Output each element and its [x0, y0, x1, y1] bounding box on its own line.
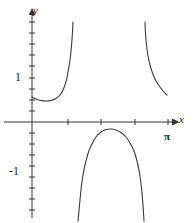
y-axis-label: y — [33, 5, 38, 16]
axes-group — [4, 8, 180, 218]
x-tick-label-pi: π — [164, 131, 170, 142]
curve-branch-left — [32, 22, 73, 101]
graph-figure: y x 1 -1 π — [0, 0, 194, 223]
y-tick-label-negative-one: -1 — [9, 165, 19, 177]
curve-branch-middle — [78, 129, 144, 221]
y-tick-label-one: 1 — [15, 71, 21, 83]
curve-branch-right — [145, 22, 167, 95]
x-axis-label: x — [179, 114, 184, 125]
plot-canvas — [0, 0, 194, 223]
